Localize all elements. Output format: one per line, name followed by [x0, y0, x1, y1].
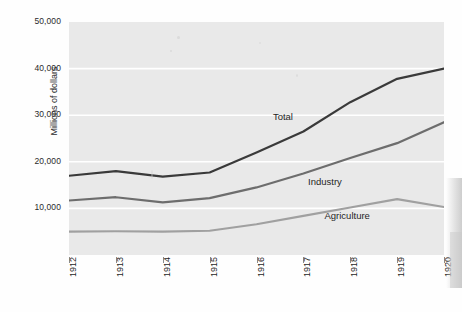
scan-speck-icon	[151, 170, 153, 179]
x-tick-label: 1916	[256, 247, 266, 287]
x-tick-label: 1919	[396, 247, 406, 287]
series-label-industry: Industry	[308, 176, 342, 187]
x-tick-label: 1915	[209, 247, 219, 287]
series-lines	[69, 69, 444, 232]
x-tick-label: 1918	[349, 247, 359, 287]
series-line-agriculture	[69, 199, 444, 232]
y-tick-label: 50,000	[3, 16, 61, 26]
series-label-agriculture: Agriculture	[324, 210, 369, 221]
y-tick-label: 10,000	[3, 202, 61, 212]
plot-area	[69, 22, 444, 255]
x-tick-label: 1917	[302, 247, 312, 287]
scan-speck-icon	[296, 74, 298, 77]
y-tick-label: 30,000	[3, 109, 61, 119]
plot-canvas	[69, 22, 444, 255]
scan-edge-shadow	[450, 232, 462, 288]
line-chart: Millions of dollars 10,00020,00030,00040…	[0, 0, 462, 312]
y-axis-title: Millions of dollars	[49, 41, 59, 161]
y-tick-label: 40,000	[3, 63, 61, 73]
series-label-total: Total	[273, 111, 293, 122]
x-tick-label: 1912	[68, 247, 78, 287]
gridlines	[69, 22, 444, 208]
scan-speck-icon	[259, 42, 261, 44]
y-tick-label: 20,000	[3, 156, 61, 166]
x-tick-label: 1913	[115, 247, 125, 287]
scan-speck-icon	[170, 50, 172, 52]
scan-speck-icon	[177, 36, 180, 39]
series-line-total	[69, 69, 444, 177]
x-tick-label: 1914	[162, 247, 172, 287]
